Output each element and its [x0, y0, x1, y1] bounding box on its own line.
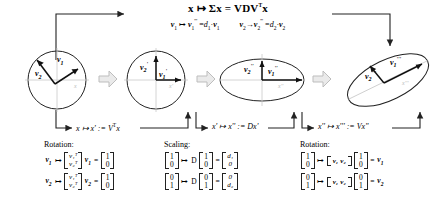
box-rotation-right: Rotation: 10 ↦ v₁v₂ 10 = v1 01 ↦ v₁v₂ [300, 140, 385, 193]
box3-r1-eq: = [370, 156, 374, 165]
box2-row-1: 10 ↦ D 10 = d₁0 [164, 151, 239, 170]
sub-r-maps: → [246, 20, 254, 29]
box1-r1-matrix: v₁ᵀ v₂ᵀ [64, 152, 82, 169]
master-formula-main: x ↦ Σx = VDVTx [128, 2, 328, 15]
box3-r2-maps: ↦ [317, 177, 324, 186]
box2-r1-op: D [191, 156, 196, 165]
box2-r1-result: d₁0 [222, 152, 238, 169]
formula-sigma-x: Σx [209, 2, 222, 14]
panel2-axis-label: x' [169, 83, 173, 89]
box3-r2-eq: = [370, 177, 374, 186]
block-arrow-2 [196, 70, 216, 92]
box2-r1-eq: = [215, 156, 219, 165]
panel4-label-v1: v1''' [390, 56, 401, 68]
box2-row-2: 01 ↦ D 01 = 0d₂ [164, 172, 239, 191]
box1-r2-eq: = [94, 177, 98, 186]
formula-rhs-tail: x [262, 2, 268, 14]
panel-circle-rotated: v1' v2' x' [123, 47, 189, 113]
transform-rotation-v: x'' ↦ x''' := Vx'' [318, 122, 369, 131]
box2-r2-input: 01 [165, 173, 179, 191]
transform-scaling-d: x' ↦ x'' := Dx' [212, 122, 258, 131]
box3-r1-matrix: v₁v₂ [327, 156, 352, 166]
box3-r1-result: v1 [377, 155, 383, 166]
panel-ellipse-scaled: v1'' v2'' x'' [218, 53, 306, 107]
panel1-label-v2: v2 [35, 69, 42, 80]
box3-row-2: 01 ↦ v₁v₂ 01 = v2 [300, 172, 385, 191]
sub-l-maps: ↦ [179, 20, 186, 29]
box3-r2-result: v2 [377, 176, 383, 187]
sub-l-prime: ''' [194, 18, 197, 24]
formula-x: x [188, 2, 194, 14]
panel2-label-v2: v2' [140, 61, 148, 73]
box2-title: Scaling: [164, 140, 239, 149]
sub-r-i2: 2 [257, 24, 260, 30]
subformula-left: v1 ↦ v1''' =d1·v1 [171, 20, 222, 29]
box1-r2-matrix: v₁ᵀ v₂ᵀ [64, 173, 82, 190]
panel4-axis-label: x''' [402, 80, 409, 86]
box1-r1-maps: ↦ [55, 156, 62, 165]
panel1-label-v1: v1 [57, 55, 64, 66]
master-formula-sub: v1 ↦ v1''' =d1·v1 v2→v2''' =d2·v2 [128, 18, 328, 30]
box2-r1-maps: ↦ [181, 156, 188, 165]
box2-r1-input: 10 [165, 152, 179, 170]
box3-r1-vec: 10 [354, 152, 368, 170]
box1-title: Rotation: [44, 140, 115, 149]
box3-r1-maps: ↦ [317, 156, 324, 165]
block-arrow-1 [98, 70, 118, 92]
subformula-right: v2→v2''' =d2·v2 [240, 20, 286, 29]
box3-r2-matrix: v₁v₂ [327, 177, 352, 187]
panel2-label-v1: v1' [159, 68, 167, 80]
box1-r2-lhs: v2 [46, 176, 52, 187]
box2-r2-vec: 01 [199, 173, 213, 191]
box1-r1-mid: v1 [85, 155, 91, 166]
master-formula: x ↦ Σx = VDVTx v1 ↦ v1''' =d1·v1 v2→v2''… [128, 2, 328, 30]
box2-r2-eq: = [215, 177, 219, 186]
panel4-label-v2: v2''' [365, 70, 376, 82]
sub-l-i: 1 [174, 24, 177, 30]
sub-r-prime: ''' [260, 18, 263, 24]
box2-r2-result: 0d₂ [222, 173, 238, 190]
box1-r1-result: 1 0 [101, 152, 115, 170]
box2-r2-maps: ↦ [181, 177, 188, 186]
box-scaling: Scaling: 10 ↦ D 10 = d₁0 01 ↦ D 01 = [164, 140, 239, 193]
transform-rotation-vt: x ↦ x' := VTx [76, 122, 120, 133]
box3-r2-vec: 01 [354, 173, 368, 191]
panel3-label-v1: v1'' [268, 65, 278, 77]
box3-r1-input: 10 [301, 152, 315, 170]
figure-canvas: x ↦ Σx = VDVTx v1 ↦ v1''' =d1·v1 v2→v2''… [0, 0, 446, 207]
sub-r-i3: 2 [283, 24, 286, 30]
panel3-label-v2: v2'' [244, 63, 254, 75]
box3-r2-input: 01 [301, 173, 315, 191]
box-rotation-left: Rotation: v1 ↦ v₁ᵀ v₂ᵀ v1 = 1 0 v2 ↦ [44, 140, 115, 193]
box2-r2-op: D [191, 177, 196, 186]
box2-r1-vec: 10 [199, 152, 213, 170]
panel3-axis-label: x'' [278, 83, 283, 89]
formula-rhs: VDV [234, 2, 258, 14]
formula-maps: ↦ [197, 2, 206, 14]
box1-row-2: v2 ↦ v₁ᵀ v₂ᵀ v2 = 1 0 [44, 172, 115, 191]
box3-row-1: 10 ↦ v₁v₂ 10 = v1 [300, 151, 385, 170]
transform-2-text: x' ↦ x'' := Dx' [212, 122, 258, 131]
panel1-axis-label: x [74, 83, 77, 89]
box1-r2-mid: v2 [85, 176, 91, 187]
panel-ellipse-rotated: v1''' v2''' x''' [338, 48, 438, 112]
formula-eq: = [225, 2, 231, 14]
panel-circle-original: v1 v2 x [24, 47, 90, 113]
box1-r1-eq: = [94, 156, 98, 165]
box1-row-1: v1 ↦ v₁ᵀ v₂ᵀ v1 = 1 0 [44, 151, 115, 170]
sub-l-i2: 1 [192, 24, 195, 30]
transform-1-tail: x [116, 124, 120, 133]
box3-title: Rotation: [300, 140, 385, 149]
box1-r1-lhs: v1 [46, 155, 52, 166]
transform-1-text: x ↦ x' := V [76, 124, 113, 133]
block-arrow-3 [312, 70, 332, 92]
transform-3-text: x'' ↦ x''' := Vx'' [318, 122, 369, 131]
box1-r2-maps: ↦ [55, 177, 62, 186]
box1-r2-result: 1 0 [101, 173, 115, 191]
sub-l-i3: 1 [217, 24, 220, 30]
